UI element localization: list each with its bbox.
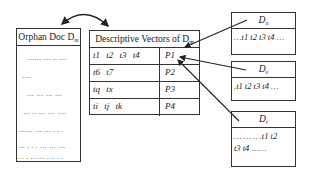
arrows-overlay (0, 0, 312, 174)
arrow-dr-to-p1 (178, 60, 239, 121)
arrow-dv-to-p1 (180, 57, 246, 70)
double-arrow-icon (62, 14, 108, 26)
arrow-du-to-p1 (185, 20, 247, 47)
